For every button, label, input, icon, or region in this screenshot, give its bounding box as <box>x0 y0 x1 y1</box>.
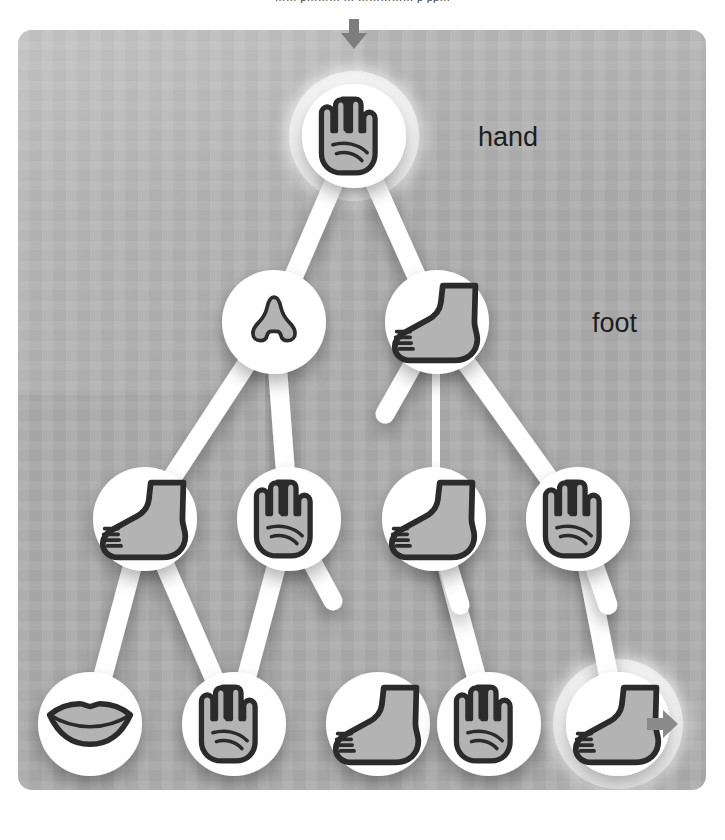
label-foot: foot <box>592 308 637 339</box>
clipped-caption: …… p……… … …………… p pp… <box>0 0 725 5</box>
label-hand: hand <box>478 122 538 153</box>
panel-top-wash <box>18 30 706 212</box>
diagram-panel <box>18 30 706 790</box>
diagram-canvas: …… p……… … …………… p pp… handfoot <box>0 0 725 840</box>
